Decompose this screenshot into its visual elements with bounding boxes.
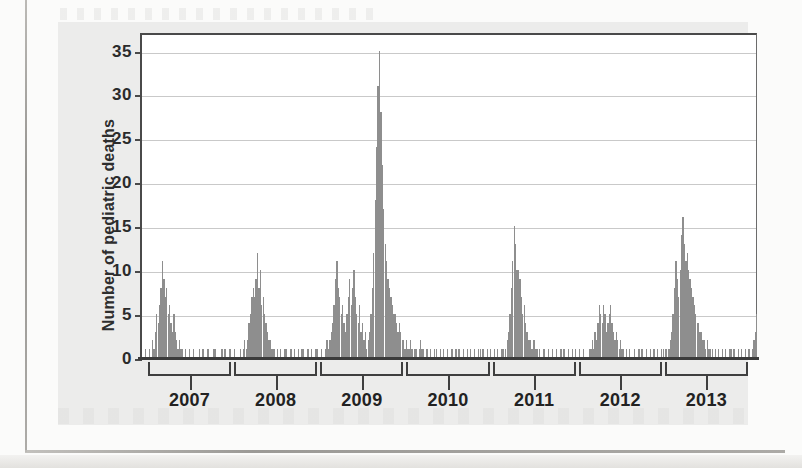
y-axis-tick-mark (135, 271, 142, 273)
y-axis-tick-label: 15 (112, 218, 132, 235)
x-axis-year-label: 2010 (427, 390, 468, 411)
page-edge-left (25, 0, 27, 452)
y-axis-tick-label: 10 (112, 262, 132, 279)
year-bracket (320, 362, 403, 376)
year-center-tick (190, 376, 192, 390)
y-axis-tick-label: 25 (112, 130, 132, 147)
x-axis-baseline (138, 357, 759, 360)
y-axis-tick-label: 30 (112, 86, 132, 103)
x-axis-year-label: 2013 (686, 390, 727, 411)
scanned-page-background: Number of pediatric deaths 0510152025303… (0, 0, 802, 468)
y-axis-tick-label: 0 (122, 350, 132, 367)
plot-area (140, 33, 757, 358)
year-center-tick (448, 376, 450, 390)
year-bracket (234, 362, 317, 376)
y-axis-tick-mark (135, 52, 142, 54)
x-axis-year-label: 2012 (600, 390, 641, 411)
year-bracket (406, 362, 489, 376)
year-center-tick (706, 376, 708, 390)
y-axis-tick-mark (135, 95, 142, 97)
y-axis-tick-labels: 05101520253035 (92, 33, 132, 358)
y-axis-tick-label: 5 (122, 306, 132, 323)
page-edge-bottom (25, 450, 785, 453)
y-axis-tick-mark (135, 183, 142, 185)
bar-series (142, 35, 756, 358)
bar (756, 314, 757, 358)
y-axis-title-container: Number of pediatric deaths (62, 120, 92, 320)
year-bracket (148, 362, 231, 376)
year-bracket (493, 362, 576, 376)
y-axis-tick-mark (135, 227, 142, 229)
year-bracket (665, 362, 748, 376)
year-center-tick (620, 376, 622, 390)
year-bracket (579, 362, 662, 376)
y-axis-tick-label: 20 (112, 174, 132, 191)
y-axis-tick-mark (135, 139, 142, 141)
x-axis-year-label: 2011 (514, 390, 554, 411)
year-center-tick (534, 376, 536, 390)
y-axis-tick-label: 35 (112, 42, 132, 59)
x-axis-year-label: 2009 (341, 390, 382, 411)
x-axis-year-label: 2007 (169, 390, 210, 411)
page-edge-shadow (0, 455, 802, 468)
year-center-tick (362, 376, 364, 390)
x-axis-year-brackets: 2007200820092010201120122013 (140, 362, 757, 422)
y-axis-tick-mark (135, 315, 142, 317)
x-axis-year-label: 2008 (255, 390, 296, 411)
year-center-tick (276, 376, 278, 390)
scan-noise-top (60, 8, 380, 20)
